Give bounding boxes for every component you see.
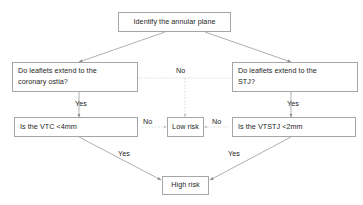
node-leaflets-coronary-ostia[interactable]: Do leaflets extend to the coronary ostia… [12, 62, 138, 92]
node-high-risk[interactable]: High risk [162, 176, 209, 195]
node-leaflets-coronary-ostia-label-line2: coronary ostia? [18, 77, 133, 88]
node-leaflets-stj-label-line2: STJ? [238, 77, 353, 88]
node-is-vtc-under-4mm[interactable]: Is the VTC <4mm [14, 117, 138, 137]
flowchart-canvas: Identify the annular plane Do leaflets e… [0, 0, 363, 205]
edge-label-yes-right: Yes [287, 99, 299, 108]
edge-label-yes-right-diagonal: Yes [228, 149, 240, 158]
node-leaflets-stj-label-line1: Do leaflets extend to the [238, 66, 317, 75]
edge-annular-to-stj [205, 32, 291, 62]
edge-vtc-to-highrisk [79, 137, 161, 180]
edge-label-yes-left: Yes [75, 99, 87, 108]
node-is-vtstj-under-2mm-label: Is the VTSTJ <2mm [238, 122, 303, 133]
edge-label-yes-left-diagonal: Yes [118, 149, 130, 158]
node-identify-annular-plane-label: Identify the annular plane [133, 17, 215, 28]
node-is-vtstj-under-2mm[interactable]: Is the VTSTJ <2mm [232, 117, 356, 137]
edge-label-no-right-of-lowrisk: No [212, 117, 221, 126]
edge-vtstj-to-highrisk [210, 137, 291, 180]
node-identify-annular-plane[interactable]: Identify the annular plane [118, 12, 231, 32]
edge-label-no-left-of-lowrisk: No [143, 117, 152, 126]
node-high-risk-label: High risk [171, 180, 199, 191]
edge-annular-to-coronary [79, 32, 165, 62]
node-low-risk-label: Low risk [172, 122, 199, 133]
edge-label-no-top-center: No [176, 66, 185, 75]
node-leaflets-stj[interactable]: Do leaflets extend to the STJ? [232, 62, 358, 92]
node-is-vtc-under-4mm-label: Is the VTC <4mm [20, 122, 77, 133]
node-leaflets-coronary-ostia-label-line1: Do leaflets extend to the [18, 66, 97, 75]
node-low-risk[interactable]: Low risk [167, 117, 204, 137]
